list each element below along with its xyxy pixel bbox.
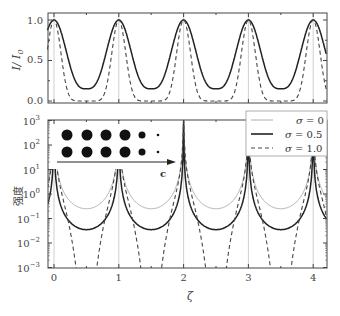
bottom-ylabel: 强度 (12, 186, 24, 206)
top-ytick-label: 0.0 (27, 95, 43, 106)
inset-dot (62, 130, 73, 141)
figure: 1.0 0.5 0.0 I/ I0 c 10310210110010−110−2… (0, 0, 340, 316)
xtick-label: 1 (116, 272, 122, 283)
top-curves (48, 20, 327, 101)
inset-dot (157, 134, 160, 137)
inset-dot (101, 147, 112, 158)
top-ytick-label: 0.5 (27, 54, 43, 65)
bottom-ytick-label: 10−1 (17, 212, 40, 225)
bottom-ytick-label: 102 (23, 138, 40, 151)
xtick-label: 3 (245, 272, 251, 283)
legend-entry-sigma-1.0: σ = 1.0 (285, 143, 322, 154)
top-ticks (48, 13, 327, 103)
bottom-ytick-label: 10−2 (17, 236, 40, 249)
bottom-ytick-label: 10−3 (17, 261, 40, 274)
inset-dot (139, 132, 146, 139)
inset-dot (101, 130, 112, 141)
inset-dot (62, 147, 73, 158)
inset-dot (120, 147, 131, 158)
bottom-ytick-label: 100 (23, 187, 40, 200)
top-ytick-labels: 1.0 0.5 0.0 (27, 15, 43, 106)
legend: σ = 0 σ = 0.5 σ = 1.0 (246, 111, 327, 156)
xtick-label: 2 (180, 272, 186, 283)
bottom-ytick-label: 103 (23, 114, 40, 127)
inset-dot (82, 130, 93, 141)
inset-dot (120, 130, 131, 141)
xtick-labels: 01234 (51, 272, 317, 283)
top-panel: 1.0 0.5 0.0 I/ I0 (10, 13, 327, 106)
xtick-label: 0 (51, 272, 57, 283)
top-gridlines (54, 13, 313, 103)
legend-entry-sigma-0: σ = 0 (296, 115, 324, 126)
top-ylabel: I/ I0 (10, 50, 25, 72)
inset-dot (82, 147, 93, 158)
inset-arrow-label: c (160, 168, 166, 179)
inset: c (49, 121, 176, 179)
xlabel: ζ (187, 290, 194, 303)
xtick-label: 4 (310, 272, 316, 283)
top-axes-frame (48, 13, 327, 103)
bottom-panel: c 10310210110010−110−210−3 强度 σ = 0 σ = … (12, 111, 327, 316)
top-ytick-label: 1.0 (27, 15, 43, 26)
legend-entry-sigma-0.5: σ = 0.5 (285, 129, 322, 140)
inset-dot (139, 149, 146, 156)
inset-dot (157, 151, 160, 154)
bottom-ytick-label: 101 (23, 163, 40, 176)
